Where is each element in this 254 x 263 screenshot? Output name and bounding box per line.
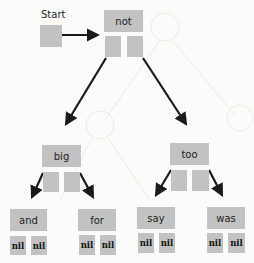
- big-right-arrow: [80, 173, 93, 197]
- node-too: too: [170, 143, 209, 165]
- not-left-arrow: [66, 58, 106, 124]
- too-left-arrow: [156, 170, 171, 195]
- node-too-left-pointer: [171, 170, 187, 191]
- node-and-right-nil: nil: [31, 236, 47, 255]
- not-right-arrow: [143, 58, 186, 124]
- big-left-arrow: [32, 173, 43, 197]
- node-and-left-nil: nil: [10, 236, 26, 255]
- node-not-right-pointer: [127, 36, 143, 57]
- start-label: Start: [41, 9, 65, 20]
- node-too-right-pointer: [192, 170, 209, 191]
- node-say-left-nil: nil: [138, 233, 154, 253]
- node-big: big: [42, 145, 81, 167]
- node-for-right-nil: nil: [100, 235, 116, 255]
- node-was: was: [207, 207, 245, 229]
- node-for: for: [78, 209, 116, 231]
- start-pointer-box: [40, 25, 62, 47]
- node-big-right-pointer: [64, 172, 80, 192]
- node-not: not: [104, 10, 143, 32]
- node-not-left-pointer: [105, 36, 121, 57]
- node-for-left-nil: nil: [79, 235, 95, 255]
- node-and: and: [10, 209, 47, 231]
- node-big-left-pointer: [43, 172, 59, 192]
- node-say-right-nil: nil: [159, 233, 175, 253]
- node-was-right-nil: nil: [228, 233, 245, 253]
- too-right-arrow: [209, 170, 222, 195]
- node-say: say: [137, 207, 175, 229]
- node-was-left-nil: nil: [207, 233, 223, 253]
